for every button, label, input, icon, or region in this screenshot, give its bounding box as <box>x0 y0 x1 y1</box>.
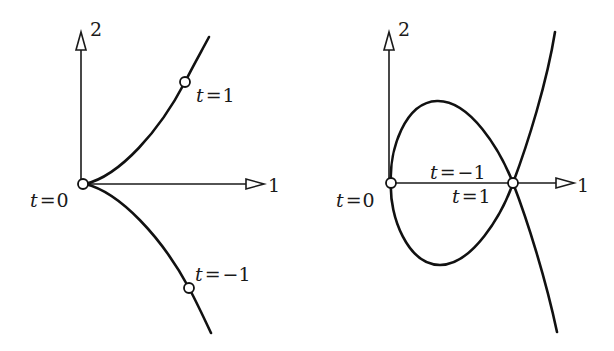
right-label-t1: t=1 <box>452 185 491 207</box>
left-point-t0 <box>78 179 88 189</box>
parametric-curves-figure: 2 1 t=0 t=1 t=−1 2 1 t=0 <box>0 0 614 351</box>
right-vertical-axis-label: 2 <box>398 18 410 40</box>
left-point-tminus1 <box>184 283 194 293</box>
right-point-crossing <box>508 178 518 188</box>
right-panel-node: 2 1 t=0 t=−1 t=1 <box>336 18 589 332</box>
right-label-tminus1: t=−1 <box>430 161 486 183</box>
left-point-t1 <box>180 77 190 87</box>
left-panel-cusp: 2 1 t=0 t=1 t=−1 <box>30 18 280 333</box>
right-horizontal-axis-label: 1 <box>577 174 589 196</box>
right-vertical-arrow-icon <box>384 32 394 50</box>
left-horizontal-axis-label: 1 <box>268 174 280 196</box>
right-horizontal-arrow-icon <box>556 178 574 188</box>
left-label-t1: t=1 <box>196 84 235 106</box>
right-point-t0 <box>386 178 396 188</box>
left-horizontal-arrow-icon <box>246 179 264 189</box>
left-vertical-axis-label: 2 <box>90 18 102 40</box>
right-label-t0: t=0 <box>336 189 375 211</box>
left-curve-lower-branch <box>85 184 211 333</box>
left-vertical-arrow-icon <box>76 32 86 50</box>
right-curve-upper-loop-lower-branch <box>391 101 557 332</box>
left-label-t0: t=0 <box>30 189 69 211</box>
left-label-tminus1: t=−1 <box>195 263 251 285</box>
left-curve-upper-branch <box>85 37 209 184</box>
